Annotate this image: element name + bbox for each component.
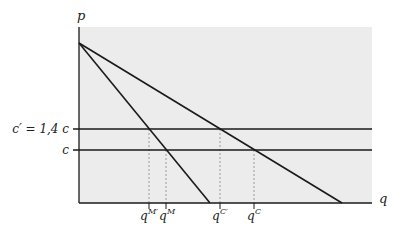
diagram-canvas: p q c′ = 1,4 c c q M′ q M q C′ q C	[0, 0, 403, 240]
svg-text:q: q	[247, 209, 255, 223]
svg-text:q: q	[159, 209, 167, 223]
q-M-prime-label: q M′	[140, 207, 158, 223]
x-axis-label: q	[379, 191, 387, 206]
c-prime-label: c′ = 1,4 c	[12, 122, 69, 136]
c-label: c	[62, 143, 69, 157]
q-M-label: q M	[159, 207, 176, 223]
svg-text:C′: C′	[220, 207, 228, 216]
svg-text:q: q	[212, 209, 220, 223]
svg-text:q: q	[140, 209, 148, 223]
q-C-label: q C	[247, 207, 261, 223]
svg-text:M: M	[166, 207, 176, 216]
y-axis-label: p	[77, 8, 86, 23]
svg-text:M′: M′	[147, 207, 158, 216]
svg-text:C: C	[255, 207, 261, 216]
plot-area	[79, 27, 372, 203]
q-C-prime-label: q C′	[212, 207, 228, 223]
